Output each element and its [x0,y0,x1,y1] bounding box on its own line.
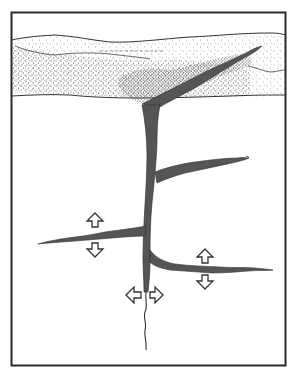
diagram-figure: Cross-section illustration of a vertical… [0,0,297,372]
upper-stippled-layer [12,33,285,104]
diagram-canvas [0,0,297,372]
